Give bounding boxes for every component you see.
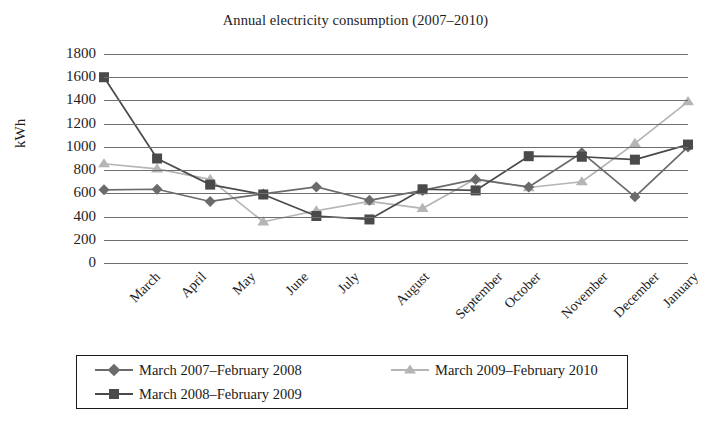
y-tick-label: 1800 <box>38 46 96 61</box>
x-tick-label-april: April <box>178 269 210 301</box>
gridline <box>104 124 688 125</box>
y-axis-label: kWh <box>12 119 29 148</box>
gridline <box>104 54 688 55</box>
y-tick-label: 0 <box>38 255 96 270</box>
legend-item-2[interactable]: March 2008–February 2009 <box>93 383 302 405</box>
gridline <box>104 100 688 101</box>
x-tick-label-march: March <box>127 269 164 306</box>
data-point <box>311 181 322 192</box>
legend-label: March 2007–February 2008 <box>139 362 302 379</box>
legend-label: March 2009–February 2010 <box>435 362 598 379</box>
series-3 <box>98 96 694 225</box>
legend-label: March 2008–February 2009 <box>139 386 302 403</box>
y-tick-label: 1200 <box>38 116 96 131</box>
legend-key-triangle-icon <box>389 361 431 379</box>
y-tick-label: 600 <box>38 185 96 200</box>
y-tick-label: 1400 <box>38 92 96 107</box>
x-tick-label-july: July <box>335 269 363 297</box>
gridline <box>104 193 688 194</box>
data-point <box>205 196 216 207</box>
legend-item-1[interactable]: March 2007–February 2008 <box>93 359 302 381</box>
chart-figure: Annual electricity consumption (2007–201… <box>0 0 711 438</box>
x-tick-label-september: September <box>452 269 506 323</box>
plot-area <box>104 54 688 263</box>
x-tick-label-august: August <box>393 269 433 309</box>
data-point <box>524 151 534 161</box>
legend-item-3[interactable]: March 2009–February 2010 <box>389 359 598 381</box>
legend-key-square-icon <box>93 385 135 403</box>
chart-legend: March 2007–February 2008March 2008–Febru… <box>76 355 628 409</box>
x-tick-label-october: October <box>501 269 544 312</box>
y-tick-label: 1000 <box>38 139 96 154</box>
x-tick-label-june: June <box>283 269 312 298</box>
x-tick-label-november: November <box>558 269 611 322</box>
data-point <box>98 158 110 167</box>
x-tick-label-january: January <box>660 269 702 311</box>
gridline <box>104 170 688 171</box>
data-point <box>576 176 588 185</box>
series-2 <box>99 72 693 224</box>
x-tick-label-december: December <box>611 269 663 321</box>
y-tick-label: 200 <box>38 232 96 247</box>
data-point <box>630 155 640 165</box>
x-tick-label-may: May <box>230 269 259 298</box>
series-line <box>104 77 688 219</box>
series-layer <box>104 54 688 263</box>
data-point <box>683 140 693 150</box>
y-tick-label: 400 <box>38 209 96 224</box>
x-axis-tick-labels: MarchAprilMayJuneJulyAugustSeptemberOcto… <box>104 263 688 343</box>
chart-title: Annual electricity consumption (2007–201… <box>0 12 711 29</box>
data-point <box>152 154 162 164</box>
legend-key-diamond-icon <box>93 361 135 379</box>
gridline <box>104 147 688 148</box>
data-point <box>470 174 481 185</box>
data-point <box>577 152 587 162</box>
gridline <box>104 240 688 241</box>
gridline <box>104 77 688 78</box>
y-tick-label: 1600 <box>38 69 96 84</box>
y-tick-label: 800 <box>38 162 96 177</box>
gridline <box>104 217 688 218</box>
data-point <box>205 180 215 190</box>
data-point <box>258 189 268 199</box>
